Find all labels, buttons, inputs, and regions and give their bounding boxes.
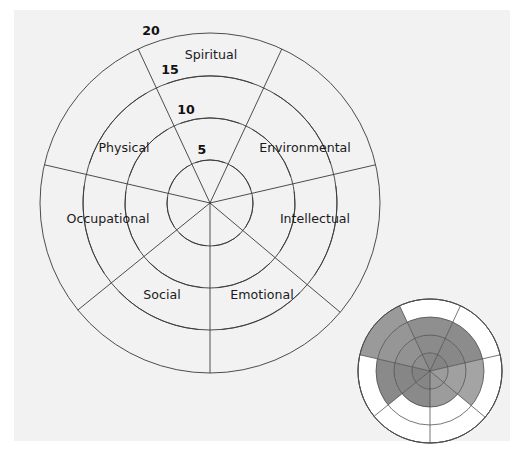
sector-label-physical: Physical	[98, 140, 149, 155]
tick-label-5: 5	[198, 142, 207, 157]
tick-label-10: 10	[177, 102, 195, 117]
sector-label-intellectual: Intellectual	[280, 211, 350, 226]
sector-1-stub-2	[181, 118, 239, 123]
sector-5-stub-1	[179, 233, 206, 246]
sector-label-occupational: Occupational	[67, 211, 150, 226]
sector-4-stub-2	[217, 263, 270, 288]
sector-3-stub-3	[314, 186, 337, 275]
sector-1-stub-3	[167, 76, 254, 84]
spoke-7	[44, 165, 210, 203]
main-wheel-sector-labels: SpiritualEnvironmentalIntellectualEmotio…	[67, 47, 351, 302]
tick-label-20: 20	[142, 23, 160, 38]
sector-4-stub-1	[214, 233, 241, 245]
sector-5-stub-2	[149, 262, 202, 288]
sector-3-stub-1	[245, 197, 253, 227]
sector-label-spiritual: Spiritual	[185, 47, 237, 62]
main-wheel	[40, 33, 380, 373]
sector-label-emotional: Emotional	[230, 287, 293, 302]
sector-7-stub-1	[169, 166, 188, 190]
tick-label-15: 15	[161, 62, 179, 77]
inset-wheel	[358, 299, 502, 443]
sector-6-stub-3	[83, 186, 104, 274]
sector-6-stub-1	[167, 197, 174, 227]
sector-label-social: Social	[143, 287, 180, 302]
wellness-wheel-svg: SpiritualEnvironmentalIntellectualEmotio…	[0, 0, 517, 449]
wellness-wheel-figure: SpiritualEnvironmentalIntellectualEmotio…	[0, 0, 517, 449]
sector-label-environmental: Environmental	[259, 140, 351, 155]
spoke-3	[210, 165, 376, 203]
sector-2-stub-1	[232, 166, 251, 190]
